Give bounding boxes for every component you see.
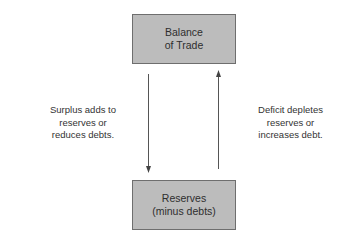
down-arrow-icon	[146, 74, 151, 173]
surplus-line2: reserves or	[33, 117, 133, 130]
deficit-line1: Deficit depletes	[238, 104, 343, 117]
up-arrow-icon	[216, 70, 221, 169]
deficit-line3: increases debt.	[238, 129, 343, 142]
surplus-annotation: Surplus adds to reserves or reduces debt…	[33, 104, 133, 142]
surplus-line1: Surplus adds to	[33, 104, 133, 117]
deficit-line2: reserves or	[238, 117, 343, 130]
deficit-annotation: Deficit depletes reserves or increases d…	[238, 104, 343, 142]
surplus-line3: reduces debts.	[33, 129, 133, 142]
